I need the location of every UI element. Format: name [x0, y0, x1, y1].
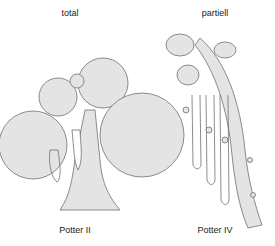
cyst: [70, 74, 84, 88]
kidney-diagram: [0, 0, 275, 246]
cyst: [0, 111, 67, 179]
cyst: [100, 93, 184, 177]
potter-ii-drawing: [0, 58, 184, 210]
